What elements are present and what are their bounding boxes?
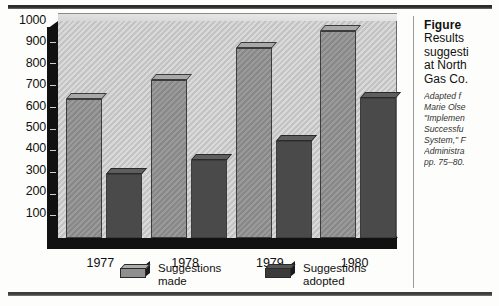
- legend-label-line1: Suggestions: [303, 262, 366, 275]
- caption-source-line: Administra: [424, 146, 499, 157]
- bar-top-face: [66, 93, 107, 99]
- caption-source: Adapted fMarie Olse"ImplemenSuccessfuSys…: [424, 91, 499, 168]
- y-tick-label: 400: [2, 142, 46, 154]
- y-tick-label: 800: [2, 57, 46, 69]
- y-tick-mark: [50, 107, 56, 108]
- y-tick-label: 900: [2, 35, 46, 47]
- y-tick-mark: [50, 63, 56, 64]
- plot-floor: [47, 238, 397, 249]
- bar-1978-made[interactable]: [151, 80, 187, 238]
- bar-group-1979: [234, 21, 319, 238]
- y-tick-mark: [50, 85, 56, 86]
- bar-face: [276, 141, 312, 238]
- bar-1979-made[interactable]: [236, 48, 272, 238]
- bar-face: [66, 99, 102, 238]
- chart-legend: SuggestionsmadeSuggestionsadopted: [120, 262, 410, 296]
- legend-label-line1: Suggestions: [158, 262, 221, 275]
- y-axis-labels: 1000900800700600500400300200100: [0, 14, 46, 240]
- y-tick-label: 100: [2, 207, 46, 219]
- bar-top-face: [106, 168, 147, 174]
- plot-lid-edge: [58, 13, 397, 14]
- legend-swatch-icon: [265, 264, 295, 278]
- bar-top-face: [236, 42, 277, 48]
- top-divider-rule: [8, 5, 492, 9]
- caption-line: Results: [424, 32, 499, 46]
- y-tick-label: 1000: [2, 14, 46, 26]
- caption-source-line: "Implemen: [424, 113, 499, 124]
- bar-face: [151, 80, 187, 238]
- bar-top-face: [276, 135, 317, 141]
- legend-label-line2: made: [158, 275, 221, 288]
- caption-source-line: pp. 75–80.: [424, 157, 499, 168]
- legend-item-made[interactable]: Suggestionsmade: [120, 262, 221, 288]
- bar-1979-adopted[interactable]: [276, 141, 312, 238]
- bar-1980-made[interactable]: [320, 31, 356, 238]
- bar-face: [360, 98, 396, 238]
- caption-divider-rule: [413, 16, 414, 288]
- bar-group-1978: [149, 21, 234, 238]
- legend-label-line2: adopted: [303, 275, 366, 288]
- y-tick-mark: [50, 129, 56, 130]
- y-axis-ticks: [50, 21, 56, 238]
- bar-1978-adopted[interactable]: [191, 160, 227, 238]
- y-tick-mark: [50, 194, 56, 195]
- plot-area: [47, 21, 397, 249]
- caption-figure-label: Figure: [424, 18, 499, 32]
- y-tick-mark: [50, 42, 56, 43]
- bar-1977-adopted[interactable]: [106, 174, 142, 238]
- bar-face: [106, 174, 142, 238]
- caption-line: Gas Co.: [424, 73, 499, 87]
- legend-swatch-icon: [120, 264, 150, 278]
- y-tick-label: 500: [2, 121, 46, 133]
- y-tick-label: 700: [2, 78, 46, 90]
- caption-body: Resultssuggestiat NorthGas Co.: [424, 32, 499, 86]
- bar-top-face: [191, 154, 232, 160]
- bar-face: [191, 160, 227, 238]
- bar-face: [236, 48, 272, 238]
- caption-line: suggesti: [424, 46, 499, 60]
- swatch-front-face: [265, 268, 291, 278]
- bar-group-1977: [64, 21, 149, 238]
- y-tick-mark: [50, 172, 56, 173]
- y-tick-label: 300: [2, 164, 46, 176]
- bar-group-1980: [318, 21, 403, 238]
- caption-source-line: Marie Olse: [424, 102, 499, 113]
- legend-item-adopted[interactable]: Suggestionsadopted: [265, 262, 366, 288]
- figure-container: 1000900800700600500400300200100 19771978…: [0, 0, 499, 306]
- y-tick-mark: [50, 215, 56, 216]
- caption-line: at North: [424, 59, 499, 73]
- figure-caption: Figure Resultssuggestiat NorthGas Co. Ad…: [424, 18, 499, 168]
- bar-top-face: [320, 25, 361, 31]
- bar-top-face: [151, 74, 192, 80]
- plot-top-lid: [58, 13, 397, 21]
- bar-face: [320, 31, 356, 238]
- bar-1977-made[interactable]: [66, 99, 102, 238]
- bar-chart: 1000900800700600500400300200100 19771978…: [0, 14, 410, 276]
- legend-label: Suggestionsmade: [158, 262, 221, 288]
- swatch-front-face: [120, 268, 146, 278]
- bar-series-container: [58, 21, 397, 238]
- bar-1980-adopted[interactable]: [360, 98, 396, 238]
- y-tick-mark: [50, 150, 56, 151]
- caption-source-line: Adapted f: [424, 91, 499, 102]
- legend-label: Suggestionsadopted: [303, 262, 366, 288]
- caption-source-line: Successfu: [424, 124, 499, 135]
- y-tick-label: 600: [2, 100, 46, 112]
- caption-source-line: System," F: [424, 135, 499, 146]
- bar-top-face: [360, 92, 401, 98]
- y-tick-label: 200: [2, 185, 46, 197]
